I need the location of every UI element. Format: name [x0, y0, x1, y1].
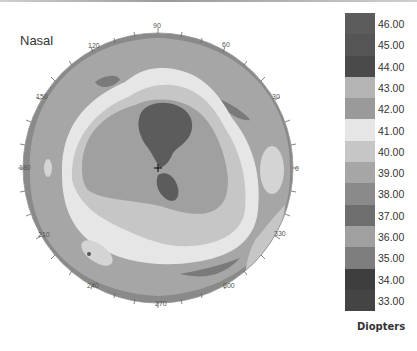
legend-swatch [345, 119, 375, 140]
legend-swatch [345, 98, 375, 119]
legend-swatch [345, 141, 375, 162]
legend-label: 38.00 [378, 188, 404, 200]
legend-label: 46.00 [378, 18, 404, 30]
angle-label-330: 330 [274, 230, 286, 237]
legend-label: 43.00 [378, 82, 404, 94]
angle-label-30: 30 [272, 93, 280, 100]
legend-swatch [345, 247, 375, 268]
legend-label: 33.00 [378, 295, 404, 307]
legend-swatch [345, 77, 375, 98]
legend-label: 40.00 [378, 146, 404, 158]
legend-label: 44.00 [378, 61, 404, 73]
island-0deg [260, 146, 284, 194]
angle-label-270: 270 [155, 300, 167, 307]
angle-label-60: 60 [222, 41, 230, 48]
map-title: Nasal [20, 33, 53, 48]
legend-label: 42.00 [378, 103, 404, 115]
legend-swatch [345, 162, 375, 183]
legend-label: 39.00 [378, 167, 404, 179]
legend-swatch [345, 56, 375, 77]
legend-label: 34.00 [378, 274, 404, 286]
legend-swatch [345, 290, 375, 311]
legend-swatch [345, 226, 375, 247]
legend-label: 35.00 [378, 252, 404, 264]
legend-unit: Diopters [357, 321, 405, 332]
angle-label-120: 120 [88, 42, 100, 49]
legend-label: 41.00 [378, 125, 404, 137]
angle-label-180: 180 [19, 164, 31, 171]
legend-swatch [345, 205, 375, 226]
angle-label-0: 0 [295, 165, 299, 172]
angle-label-210: 210 [38, 231, 50, 238]
legend-swatch [345, 269, 375, 290]
color-legend [345, 13, 375, 311]
legend-swatch [345, 13, 375, 34]
angle-label-300: 300 [223, 282, 235, 289]
legend-label: 45.00 [378, 39, 404, 51]
island-180deg [44, 159, 52, 177]
legend-swatch [345, 34, 375, 55]
angle-label-150: 150 [36, 93, 48, 100]
legend-label: 37.00 [378, 210, 404, 222]
legend-swatch [345, 183, 375, 204]
angle-label-240: 240 [87, 282, 99, 289]
angle-label-90: 90 [153, 22, 161, 29]
legend-label: 36.00 [378, 231, 404, 243]
